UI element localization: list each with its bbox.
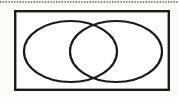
venn-diagram-figure xyxy=(0,0,178,97)
venn-diagram-canvas xyxy=(0,0,178,97)
